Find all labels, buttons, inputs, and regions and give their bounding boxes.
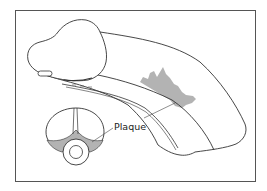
plaque-diagram: Plaque	[0, 0, 267, 191]
urethra-lumen	[70, 146, 83, 159]
plaque-label: Plaque	[114, 121, 146, 132]
urethral-opening	[38, 71, 52, 76]
cross-section	[46, 108, 104, 165]
